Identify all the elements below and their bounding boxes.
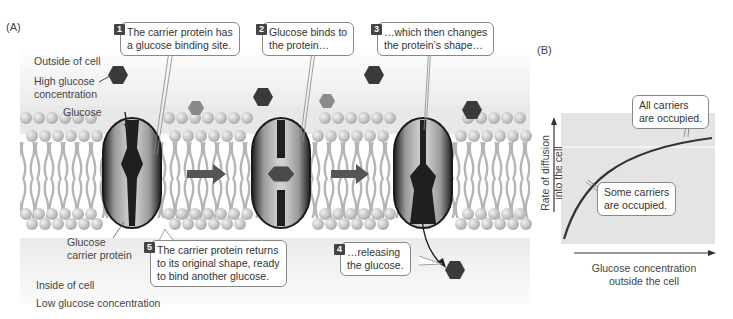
step-2-text: Glucose binds to the protein… [262, 22, 354, 56]
step-1-callout: 1 The carrier protein has a glucose bind… [114, 22, 240, 56]
step-5-callout: 5 The carrier protein returns to its ori… [144, 240, 287, 287]
high-concentration-label: High glucose concentration [34, 75, 97, 101]
step-2-callout: 2 Glucose binds to the protein… [256, 22, 354, 56]
step-2-number: 2 [256, 24, 267, 35]
step-1-number: 1 [114, 24, 125, 35]
glucose-label: Glucose [63, 106, 102, 119]
step-4-callout: 4 …releasing the glucose. [334, 242, 411, 276]
some-carriers-annotation: Some carriers are occupied. [597, 182, 676, 216]
carrier-protein-label: Glucose carrier protein [67, 236, 132, 262]
step-4-text: …releasing the glucose. [340, 242, 411, 276]
step-5-number: 5 [144, 242, 155, 253]
chart-plot-area [561, 113, 715, 244]
step-3-callout: 3 …which then changes the protein’s shap… [371, 22, 494, 56]
x-axis-label: Glucose concentration outside the cell [574, 262, 714, 288]
y-axis-label: Rate of diffusion into the cell [539, 113, 565, 233]
released-glucose [445, 261, 465, 279]
inside-cell-label: Inside of cell [36, 279, 94, 292]
all-carriers-annotation: All carriers are occupied. [632, 95, 709, 129]
step-3-text: …which then changes the protein’s shape… [377, 22, 494, 56]
carrier-protein-1 [103, 118, 161, 228]
step-3-number: 3 [371, 24, 382, 35]
carrier-protein-3 [394, 118, 452, 228]
step-4-number: 4 [334, 244, 345, 255]
low-concentration-label: Low glucose concentration [36, 297, 160, 310]
step-1-text: The carrier protein has a glucose bindin… [120, 22, 240, 56]
step-5-text: The carrier protein returns to its origi… [150, 240, 287, 287]
outside-cell-label: Outside of cell [34, 55, 101, 68]
